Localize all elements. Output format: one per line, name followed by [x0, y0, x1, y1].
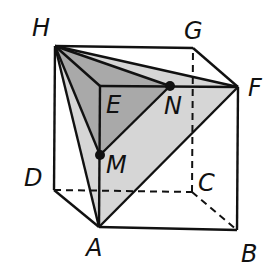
edge-fb — [237, 87, 238, 230]
edge-hg — [55, 46, 193, 48]
edge-cb — [192, 192, 237, 230]
edge-hd — [54, 46, 55, 190]
label-c: C — [198, 169, 215, 197]
label-m: M — [106, 151, 127, 179]
label-e: E — [106, 91, 122, 119]
label-d: D — [24, 164, 42, 192]
label-a: A — [84, 234, 102, 262]
label-b: B — [241, 240, 257, 268]
point-m — [95, 150, 105, 160]
label-h: H — [32, 14, 50, 42]
label-n: N — [164, 92, 182, 120]
edge-ab — [99, 227, 237, 230]
label-f: F — [248, 74, 263, 102]
point-n — [165, 81, 175, 91]
cube-diagram: H G F E N M D C A B — [0, 0, 278, 277]
label-g: G — [184, 17, 203, 45]
